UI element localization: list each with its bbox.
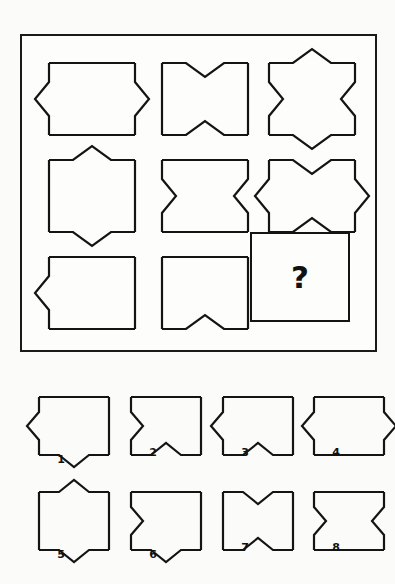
puzzle-root: ? 1 2 3 4 5 6 7 — [0, 0, 395, 584]
answer-option-6-label: 6 — [143, 548, 163, 561]
matrix-frame: ? — [20, 34, 377, 352]
answer-option-8-label: 8 — [326, 541, 346, 554]
answer-option-2[interactable] — [120, 386, 212, 466]
matrix-cell-r2c3[interactable] — [255, 146, 369, 246]
figure-r2c2 — [148, 146, 262, 246]
figure-option-3 — [212, 386, 304, 466]
figure-r1c1 — [35, 49, 149, 149]
answer-option-5-label: 5 — [51, 548, 71, 561]
answer-option-6[interactable] — [120, 481, 212, 561]
figure-option-6 — [120, 481, 212, 561]
figure-option-2 — [120, 386, 212, 466]
figure-r2c1 — [35, 146, 149, 246]
matrix-cell-r1c1[interactable] — [35, 49, 149, 149]
figure-r3c2 — [148, 243, 262, 343]
figure-r1c2 — [148, 49, 262, 149]
answer-option-4-label: 4 — [326, 446, 346, 459]
answer-option-5[interactable] — [28, 481, 120, 561]
question-mark: ? — [291, 262, 309, 293]
matrix-cell-r1c3[interactable] — [255, 49, 369, 149]
figure-option-5 — [28, 481, 120, 561]
answer-option-7[interactable] — [212, 481, 304, 561]
figure-r2c3 — [255, 146, 369, 246]
figure-r1c3 — [255, 49, 369, 149]
figure-option-1 — [28, 386, 120, 466]
matrix-grid: ? — [22, 36, 375, 350]
answer-option-1-label: 1 — [51, 453, 71, 466]
matrix-cell-r2c2[interactable] — [148, 146, 262, 246]
answer-option-3-label: 3 — [235, 446, 255, 459]
answer-option-1[interactable] — [28, 386, 120, 466]
figure-option-7 — [212, 481, 304, 561]
figure-option-4 — [303, 386, 395, 466]
answer-options-area: 1 2 3 4 5 6 7 8 — [0, 380, 395, 584]
answer-option-4[interactable] — [303, 386, 395, 466]
matrix-cell-answer-box[interactable]: ? — [250, 232, 350, 322]
answer-option-2-label: 2 — [143, 446, 163, 459]
matrix-cell-r2c1[interactable] — [35, 146, 149, 246]
figure-r3c1 — [35, 243, 149, 343]
figure-option-8 — [303, 481, 395, 561]
answer-option-8[interactable] — [303, 481, 395, 561]
answer-option-3[interactable] — [212, 386, 304, 466]
matrix-cell-r1c2[interactable] — [148, 49, 262, 149]
answer-option-7-label: 7 — [235, 541, 255, 554]
matrix-cell-r3c2[interactable] — [148, 243, 262, 343]
matrix-cell-r3c1[interactable] — [35, 243, 149, 343]
